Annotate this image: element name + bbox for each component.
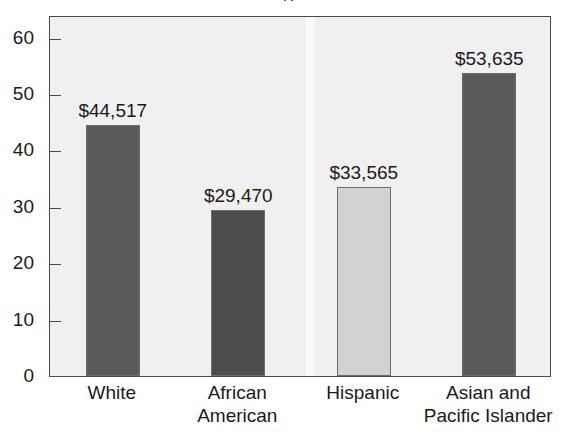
y-axis-tick-label: 10 bbox=[13, 309, 34, 331]
bar-slot: $53,635 bbox=[427, 15, 553, 376]
bar[interactable] bbox=[86, 125, 140, 376]
y-axis-tick-label: 40 bbox=[13, 139, 34, 161]
y-axis-tick-mark bbox=[50, 264, 61, 265]
bar[interactable] bbox=[211, 210, 265, 376]
x-axis-category-label: White bbox=[42, 381, 182, 404]
bar-slot: $29,470 bbox=[176, 15, 302, 376]
y-axis-tick-mark bbox=[50, 208, 61, 209]
y-axis-tick-label: 50 bbox=[13, 83, 34, 105]
x-axis-category-label: Asian andPacific Islander bbox=[418, 381, 558, 427]
bar-value-label: $33,565 bbox=[329, 162, 398, 183]
x-axis-category-label: AfricanAmerican bbox=[167, 381, 307, 427]
y-axis-tick-label: 60 bbox=[13, 27, 34, 49]
y-axis-tick-mark bbox=[50, 151, 61, 152]
x-axis-category-label: Hispanic bbox=[293, 381, 433, 404]
y-axis-tick-label: 30 bbox=[13, 196, 34, 218]
x-axis: WhiteAfricanAmericanHispanicAsian andPac… bbox=[49, 381, 551, 434]
bar[interactable] bbox=[337, 187, 391, 376]
y-axis-tick-label: 20 bbox=[13, 252, 34, 274]
chart-title-clipped: ( ) bbox=[0, 0, 577, 3]
x-axis-category-line: White bbox=[42, 381, 182, 404]
plot-area: $44,517$29,470$33,565$53,635 bbox=[49, 16, 551, 377]
bar-value-label: $44,517 bbox=[78, 100, 147, 121]
x-axis-category-line: Asian and bbox=[418, 381, 558, 404]
x-axis-category-line: Pacific Islander bbox=[418, 404, 558, 427]
y-axis-tick-mark bbox=[50, 39, 61, 40]
x-axis-category-line: American bbox=[167, 404, 307, 427]
y-axis-tick-mark bbox=[50, 95, 61, 96]
y-axis-tick-mark bbox=[50, 321, 61, 322]
bar-value-label: $29,470 bbox=[204, 185, 273, 206]
bar-chart: ( ) $44,517$29,470$33,565$53,635 0102030… bbox=[0, 0, 577, 434]
x-axis-category-line: Hispanic bbox=[293, 381, 433, 404]
bar[interactable] bbox=[462, 73, 516, 376]
bar-value-label: $53,635 bbox=[455, 48, 524, 69]
y-axis: 0102030405060 bbox=[0, 0, 49, 434]
x-axis-category-line: African bbox=[167, 381, 307, 404]
bar-slot: $33,565 bbox=[301, 15, 427, 376]
y-axis-tick-label: 0 bbox=[23, 365, 34, 387]
bar-slot: $44,517 bbox=[50, 15, 176, 376]
